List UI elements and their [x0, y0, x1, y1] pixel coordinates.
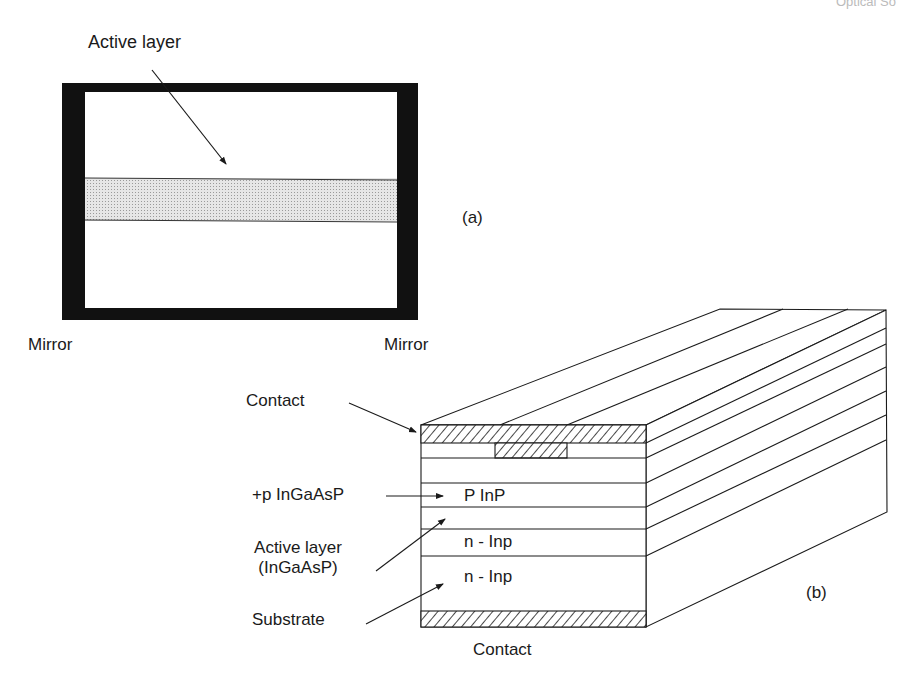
n-inp-layer-label-1: n - Inp [464, 532, 512, 552]
n-inp-layer-label-2: n - Inp [464, 567, 512, 587]
p-inp-layer-label: P InP [464, 486, 505, 506]
contact-top-label: Contact [246, 391, 305, 411]
contact-top-arrow [349, 403, 416, 432]
bottom-contact-layer [421, 611, 646, 627]
contact-stripe [495, 443, 567, 458]
top-contact-layer [421, 425, 646, 443]
p-ingaasp-label: +p InGaAsP [252, 485, 344, 505]
active-layer-label-line1: Active layer [248, 538, 348, 558]
figure-b-drawing [0, 0, 917, 681]
panel-label-b: (b) [806, 583, 827, 603]
block-front-face [421, 425, 646, 627]
active-layer-label-line2: (InGaAsP) [248, 558, 348, 578]
substrate-label: Substrate [252, 610, 325, 630]
active-layer-label-b: Active layer (InGaAsP) [248, 538, 348, 578]
contact-bottom-label: Contact [473, 640, 532, 660]
